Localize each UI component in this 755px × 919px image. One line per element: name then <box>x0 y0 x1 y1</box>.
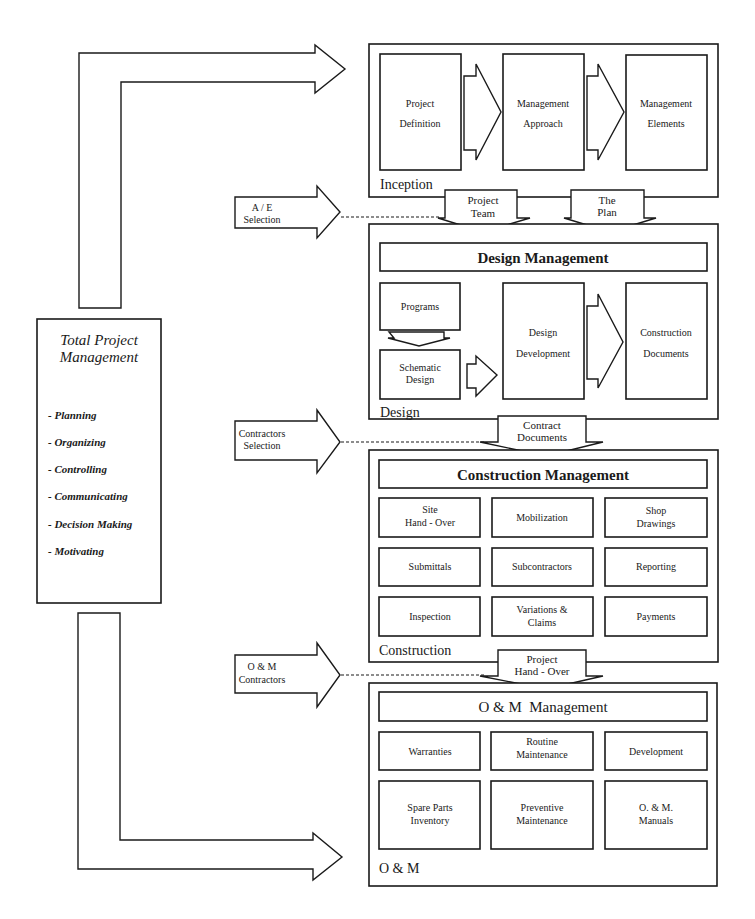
bottom-bracket-arrow <box>78 613 342 880</box>
item-label: Routine <box>526 736 558 747</box>
item-label: Development <box>629 746 683 757</box>
step-label: Definition <box>399 118 440 129</box>
design-development-box <box>503 283 584 399</box>
item-label: Maintenance <box>516 749 568 760</box>
item-label: Manuals <box>639 815 674 826</box>
transfer-label: Project <box>526 653 557 665</box>
input-label: Selection <box>243 214 280 225</box>
input-label: Selection <box>243 440 280 451</box>
step-label: Management <box>517 98 569 109</box>
item-label: Variations & <box>517 604 568 615</box>
function-item: - Motivating <box>48 545 104 557</box>
phase-label-design: Design <box>380 405 420 420</box>
item-label: Drawings <box>637 518 676 529</box>
item-label: Payments <box>637 611 676 622</box>
phase-label-inception: Inception <box>380 177 433 192</box>
input-label: A / E <box>252 202 273 213</box>
item-label: Inspection <box>409 611 451 622</box>
item-label: Claims <box>528 617 556 628</box>
input-label: Contractors <box>239 428 286 439</box>
item-label: Hand - Over <box>405 517 456 528</box>
item-label: Maintenance <box>516 815 568 826</box>
project-definition-box <box>380 54 461 170</box>
transfer-label: Hand - Over <box>515 665 570 677</box>
management-elements-box <box>626 55 707 170</box>
step-label: Programs <box>401 301 439 312</box>
step-label: Schematic <box>399 362 441 373</box>
item-label: O. & M. <box>639 802 673 813</box>
transfer-label: Project <box>467 194 498 206</box>
step-label: Design <box>529 327 557 338</box>
phase-label-construction: Construction <box>379 643 451 658</box>
step-label: Approach <box>523 118 562 129</box>
function-item: - Controlling <box>48 463 107 475</box>
item-label: Mobilization <box>516 512 568 523</box>
item-label: Reporting <box>636 561 676 572</box>
header-label: Construction Management <box>457 467 629 483</box>
input-label: O & M <box>248 661 277 672</box>
function-item: - Planning <box>48 409 97 421</box>
step-label: Design <box>406 374 434 385</box>
item-label: Preventive <box>521 802 564 813</box>
item-label: Subcontractors <box>512 561 572 572</box>
header-label: Design Management <box>477 250 608 266</box>
function-item: - Decision Making <box>48 518 133 530</box>
item-label: Shop <box>646 505 667 516</box>
transfer-label: The <box>598 194 615 206</box>
item-label: Warranties <box>408 746 451 757</box>
transfer-label: Documents <box>517 431 567 443</box>
step-label: Management <box>640 98 692 109</box>
input-label: Contractors <box>239 674 286 685</box>
transfer-label: Contract <box>523 419 561 431</box>
step-label: Construction <box>640 327 692 338</box>
item-label: Inventory <box>411 815 450 826</box>
function-item: - Communicating <box>48 490 128 502</box>
step-label: Documents <box>643 348 689 359</box>
transfer-label: Team <box>471 207 496 219</box>
total-pm-title-2: Management <box>59 349 139 365</box>
phase-label-om: O & M <box>379 861 420 876</box>
item-label: Submittals <box>409 561 452 572</box>
item-label: Site <box>422 504 438 515</box>
transfer-label: Plan <box>597 206 617 218</box>
step-label: Project <box>406 98 435 109</box>
project-management-diagram: Total Project Management - Planning - Or… <box>0 0 755 919</box>
function-item: - Organizing <box>48 436 106 448</box>
construction-documents-box <box>626 283 707 399</box>
step-label: Elements <box>647 118 684 129</box>
step-label: Development <box>516 348 570 359</box>
total-pm-title-1: Total Project <box>60 332 138 348</box>
top-bracket-arrow <box>79 45 345 308</box>
management-approach-box <box>503 54 584 170</box>
header-label: O & M Management <box>478 699 608 715</box>
item-label: Spare Parts <box>407 802 452 813</box>
